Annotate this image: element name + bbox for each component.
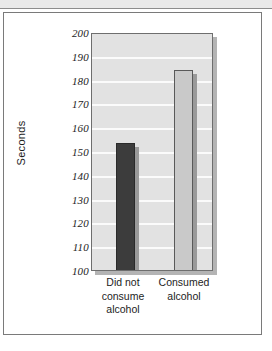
figure-frame: 200190180170160150140130120110100 Second… [3,12,262,335]
figure-page: 200190180170160150140130120110100 Second… [0,0,272,351]
y-tick-label-150: 150 [27,147,89,158]
gridline-190 [92,57,212,59]
x-axis-category-label-1-line-0: Consumed [151,276,217,290]
y-tick-label-170: 170 [27,99,89,110]
y-tick-label-200: 200 [27,28,89,39]
y-tick-label-100: 100 [27,266,89,277]
y-axis-tick-labels: 200190180170160150140130120110100 [22,13,89,336]
y-tick-label-140: 140 [27,171,89,182]
y-tick-label-190: 190 [27,52,89,63]
y-tick-label-130: 130 [27,195,89,206]
x-axis-category-label-0-line-2: alcohol [90,303,156,317]
y-tick-label-180: 180 [27,76,89,87]
bar-0[interactable] [116,143,135,271]
y-axis-title: Seconds [15,108,27,178]
y-tick-label-110: 110 [27,242,89,253]
bar-1[interactable] [174,70,193,271]
x-axis-category-label-0-line-1: consume [90,290,156,304]
page-top-band [0,0,272,9]
bar-chart: 200190180170160150140130120110100 Second… [4,13,263,336]
y-tick-label-160: 160 [27,123,89,134]
x-axis-category-label-1-line-1: alcohol [151,290,217,304]
x-axis-category-label-1: Consumedalcohol [151,276,217,303]
x-axis-category-label-0: Did notconsumealcohol [90,276,156,317]
y-tick-label-120: 120 [27,218,89,229]
x-axis-category-label-0-line-0: Did not [90,276,156,290]
plot-area [91,33,213,271]
